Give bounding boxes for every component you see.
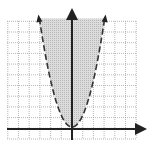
curve-arrow-right <box>102 14 108 22</box>
curve-arrow-left <box>36 14 42 22</box>
parabola-graph <box>0 0 148 160</box>
